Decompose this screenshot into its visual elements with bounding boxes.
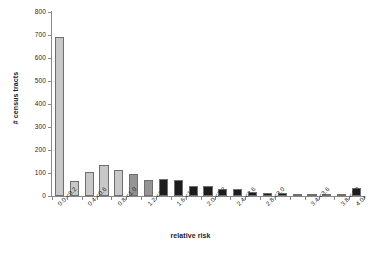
x-axis-tick-mark <box>201 197 202 200</box>
x-axis-tick-mark <box>82 197 83 200</box>
x-axis-tick-mark <box>230 197 231 200</box>
x-axis-title: relative risk <box>0 232 381 239</box>
y-axis-tick-label: 500 <box>10 78 46 85</box>
y-axis-tick-label: 600 <box>10 55 46 62</box>
x-axis-tick-mark <box>260 197 261 200</box>
x-axis-tick-mark <box>334 197 335 200</box>
x-axis-tick-mark <box>171 197 172 200</box>
y-axis-tick-label: 100 <box>10 170 46 177</box>
chart-figure: # census tracts 010020030040050060070080… <box>0 0 381 253</box>
y-axis-label-wrapper: # census tracts <box>8 0 22 196</box>
bar <box>144 180 153 196</box>
bar <box>55 37 64 196</box>
y-axis-tick-label: 700 <box>10 32 46 39</box>
x-axis-tick-mark <box>290 197 291 200</box>
bar <box>293 194 302 196</box>
x-axis-tick-mark <box>141 197 142 200</box>
x-axis-tick-mark <box>111 197 112 200</box>
y-axis-tick-label: 400 <box>10 101 46 108</box>
bar <box>85 172 94 196</box>
x-axis-tick-mark <box>305 197 306 200</box>
y-axis-tick-label: 300 <box>10 124 46 131</box>
y-axis-tick-label: 0 <box>10 193 46 200</box>
x-axis-tick-mark <box>52 197 53 200</box>
y-axis-tick-label: 800 <box>10 9 46 16</box>
plot-area <box>52 12 364 196</box>
bar <box>114 170 123 196</box>
y-axis-tick-label: 200 <box>10 147 46 154</box>
